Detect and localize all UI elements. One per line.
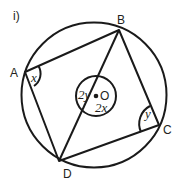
point-label-d: D <box>63 168 72 180</box>
point-label-b: B <box>117 14 125 26</box>
centre-point-o <box>94 94 99 99</box>
point-label-a: A <box>10 67 18 79</box>
point-label-c: C <box>163 124 172 136</box>
angle-label-y: y <box>145 107 151 120</box>
cyclic-quadrilateral-abcd <box>25 30 159 161</box>
angle-label-2x: 2x <box>95 101 107 114</box>
angle-label-x: x <box>31 71 37 84</box>
angle-label-2y: 2y <box>78 88 90 101</box>
